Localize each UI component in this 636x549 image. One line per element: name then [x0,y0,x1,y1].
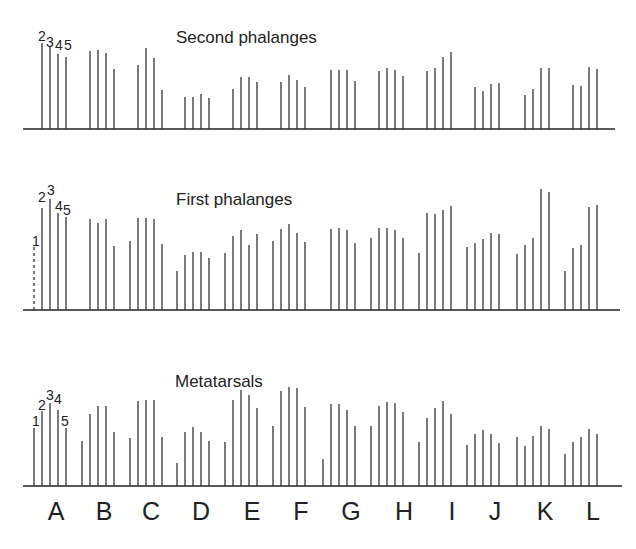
panel-title-metatarsals: Metatarsals [175,372,263,392]
category-label-e: E [237,497,267,526]
digit-label: 3 [47,182,55,198]
digit-label: 1 [32,413,40,429]
category-label-g: G [336,497,366,526]
category-label-f: F [286,497,316,526]
category-label-d: D [186,497,216,526]
digit-label: 3 [46,387,54,403]
category-label-a: A [41,497,71,526]
digit-label: 4 [55,198,63,214]
digit-label: 2 [38,189,46,205]
category-label-k: K [530,497,560,526]
digit-label: 2 [38,397,46,413]
chart-canvas [0,0,636,549]
digit-label: 4 [55,37,63,53]
category-label-i: I [437,497,467,526]
category-label-b: B [89,497,119,526]
panel-title-second-phalanges: Second phalanges [176,28,317,48]
category-label-h: H [389,497,419,526]
digit-label: 5 [63,202,71,218]
category-label-j: J [480,497,510,526]
category-label-c: C [136,497,166,526]
digit-label: 3 [46,34,54,50]
category-label-l: L [578,497,608,526]
digit-label: 1 [32,233,40,249]
panel-title-first-phalanges: First phalanges [176,190,292,210]
digit-label: 5 [64,37,72,53]
digit-label: 2 [38,28,46,44]
digit-label: 4 [54,391,62,407]
digit-label: 5 [61,413,69,429]
